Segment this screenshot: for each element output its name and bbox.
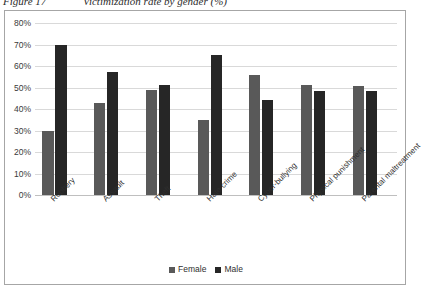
legend-item-male[interactable]: Male	[215, 265, 242, 274]
figure-number: Figure 17	[3, 0, 46, 7]
bar-group	[190, 23, 242, 195]
legend-label: Male	[224, 265, 242, 274]
y-axis-tick-label: 60%	[14, 62, 31, 70]
bar-female[interactable]	[94, 103, 105, 195]
y-axis-tick-label: 30%	[14, 127, 31, 135]
figure-caption-text: Victimization rate by gender (%)	[83, 0, 227, 7]
bar-female[interactable]	[146, 90, 157, 195]
y-axis-tick-label: 80%	[14, 19, 31, 27]
y-axis-tick-label: 70%	[14, 41, 31, 49]
legend-swatch-icon	[215, 267, 221, 273]
bar-male[interactable]	[314, 91, 325, 195]
bar-female[interactable]	[42, 131, 53, 196]
y-axis-tick-label: 10%	[14, 170, 31, 178]
chart-legend: FemaleMale	[5, 265, 407, 274]
bar-male[interactable]	[107, 72, 118, 195]
chart-frame: 0%10%20%30%40%50%60%70%80% RobberyAssaul…	[4, 10, 406, 285]
figure-caption: Figure 17 Victimization rate by gender (…	[0, 0, 413, 9]
bar-female[interactable]	[301, 85, 312, 195]
bar-female[interactable]	[249, 75, 260, 195]
y-axis-tick-label: 0%	[19, 191, 31, 199]
y-axis-tick-label: 40%	[14, 105, 31, 113]
bar-female[interactable]	[353, 86, 364, 195]
x-axis-labels: RobberyAssaultTheftHate crimeCyber-bully…	[35, 197, 397, 259]
bar-group	[138, 23, 190, 195]
bar-group	[87, 23, 139, 195]
bar-male[interactable]	[55, 45, 66, 196]
bar-group	[35, 23, 87, 195]
legend-item-female[interactable]: Female	[169, 265, 206, 274]
legend-swatch-icon	[169, 267, 175, 273]
bar-male[interactable]	[211, 55, 222, 195]
y-axis-tick-label: 50%	[14, 84, 31, 92]
y-axis-tick-label: 20%	[14, 148, 31, 156]
bar-male[interactable]	[159, 85, 170, 195]
bar-female[interactable]	[198, 120, 209, 195]
legend-label: Female	[178, 265, 206, 274]
bar-male[interactable]	[366, 91, 377, 195]
